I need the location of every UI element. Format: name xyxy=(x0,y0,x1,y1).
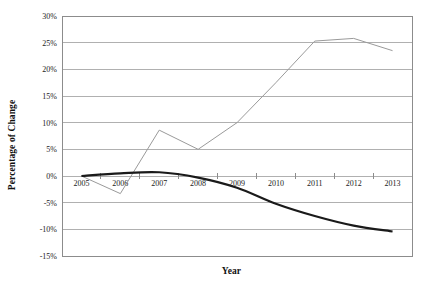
plot-border xyxy=(62,16,412,256)
line-chart-figure: Percentage of Change Year 30%25%20%15%10… xyxy=(0,0,427,289)
plot-border-group xyxy=(62,16,412,256)
plot-area xyxy=(0,0,427,289)
gridlines-group xyxy=(62,16,412,256)
series-line-1 xyxy=(81,38,392,193)
